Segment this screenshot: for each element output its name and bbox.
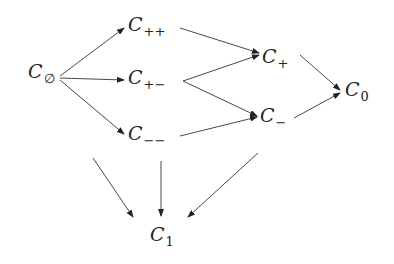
node-base: C [150, 223, 165, 245]
node-base: C [128, 122, 143, 144]
node-subscript: ∅ [44, 71, 55, 86]
node-base: C [28, 60, 43, 82]
edge-mm-m [180, 117, 257, 136]
node-subscript: − [276, 115, 287, 130]
node-subscript: +− [144, 77, 166, 92]
node-subscript: −− [144, 133, 166, 148]
edge-pm-p [183, 55, 259, 81]
node-c-one: C1 [150, 225, 174, 248]
node-subscript: ++ [144, 24, 166, 39]
node-c-plus-plus: C++ [128, 15, 165, 38]
node-base: C [262, 45, 277, 67]
node-c-minus: C− [260, 106, 286, 129]
node-base: C [260, 104, 275, 126]
node-c-empty: C∅ [28, 62, 55, 85]
node-subscript: + [278, 56, 289, 71]
edge-pm-m [183, 81, 257, 116]
node-subscript: 0 [361, 89, 369, 104]
node-c-plus: C+ [262, 47, 288, 70]
node-base: C [128, 66, 143, 88]
edge-empty-mm [60, 80, 124, 134]
diagram-canvas: C∅ C++ C+− C−− C+ C− C0 C1 [0, 0, 394, 264]
edge-m-zero [294, 93, 340, 118]
node-base: C [345, 78, 360, 100]
edge-p-zero [300, 55, 340, 90]
node-base: C [128, 13, 143, 35]
edges-layer [0, 0, 394, 264]
edge-left-one [93, 158, 133, 217]
edge-pp-p [180, 28, 259, 53]
edge-right-one [188, 153, 258, 217]
edge-empty-pp [60, 28, 124, 76]
node-c-plus-minus: C+− [128, 68, 165, 91]
node-subscript: 1 [166, 234, 174, 249]
edge-empty-pm [60, 78, 124, 80]
node-c-minus-minus: C−− [128, 124, 165, 147]
node-c-zero: C0 [345, 80, 369, 103]
